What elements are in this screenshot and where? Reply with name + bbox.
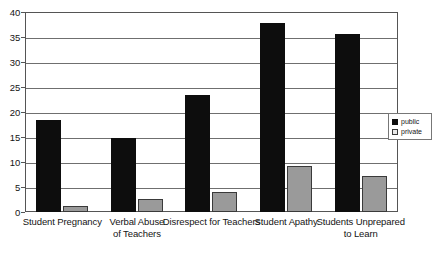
legend-item-private[interactable]: private [392, 127, 428, 136]
bar-public [111, 138, 136, 212]
x-axis-label-line: to Learn [309, 228, 412, 240]
x-axis-label: Students Unpreparedto Learn [309, 216, 412, 239]
bar-public [260, 23, 285, 212]
x-axis-label-line: Students Unprepared [309, 216, 412, 228]
bar-group [25, 12, 100, 212]
x-axis-label-line: of Teachers [86, 228, 189, 240]
bar-group [323, 12, 398, 212]
bar-private [287, 166, 312, 213]
bar-chart: 0510152025303540 Student PregnancyVerbal… [0, 0, 441, 256]
bar-public [185, 95, 210, 212]
bar-private [362, 176, 387, 212]
x-axis-labels: Student PregnancyVerbal Abuseof Teachers… [25, 216, 398, 252]
public-swatch-icon [392, 119, 398, 125]
bar-public [335, 34, 360, 212]
chart-legend: publicprivate [388, 113, 432, 140]
bar-private [63, 206, 88, 212]
y-tick-label: 25 [10, 83, 20, 92]
legend-label: private [401, 128, 422, 136]
bars-layer [25, 12, 398, 212]
bar-group [174, 12, 249, 212]
private-swatch-icon [392, 129, 398, 135]
y-tick-label: 35 [10, 33, 20, 42]
bar-public [36, 120, 61, 212]
bar-private [212, 192, 237, 212]
legend-label: public [401, 118, 419, 126]
y-tick-label: 5 [15, 183, 20, 192]
y-tick-label: 20 [10, 108, 20, 117]
y-tick-label: 40 [10, 8, 20, 17]
y-tick-label: 10 [10, 158, 20, 167]
bar-group [249, 12, 324, 212]
bar-group [100, 12, 175, 212]
y-tick-label: 30 [10, 58, 20, 67]
legend-item-public[interactable]: public [392, 117, 428, 126]
bar-private [138, 199, 163, 212]
y-tick-label: 15 [10, 133, 20, 142]
y-axis: 0510152025303540 [0, 12, 25, 212]
